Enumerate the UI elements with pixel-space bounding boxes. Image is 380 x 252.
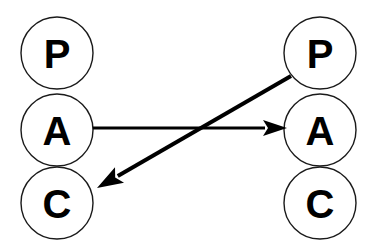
arrow-shaft-right-p-to-left-c	[118, 76, 291, 176]
node-right-c[interactable]: C	[284, 167, 356, 239]
node-label-left-a: A	[43, 109, 72, 153]
node-label-left-c: C	[43, 182, 72, 226]
node-right-p[interactable]: P	[284, 17, 356, 89]
arrow-right-p-to-left-c[interactable]	[97, 76, 291, 188]
node-right-a[interactable]: A	[284, 94, 356, 166]
arrowhead-left-a-to-right-a	[263, 120, 287, 136]
node-label-right-a: A	[306, 109, 335, 153]
node-left-a[interactable]: A	[21, 94, 93, 166]
pac-diagram: P A C P A C	[0, 0, 380, 252]
node-label-right-p: P	[307, 32, 334, 76]
left-column: P A C	[21, 17, 93, 239]
node-left-p[interactable]: P	[21, 17, 93, 89]
right-column: P A C	[284, 17, 356, 239]
edges-layer	[93, 76, 291, 188]
node-label-left-p: P	[44, 32, 71, 76]
arrowhead-right-p-to-left-c	[97, 167, 124, 188]
diagram-canvas: P A C P A C	[0, 0, 380, 252]
node-label-right-c: C	[306, 182, 335, 226]
node-left-c[interactable]: C	[21, 167, 93, 239]
